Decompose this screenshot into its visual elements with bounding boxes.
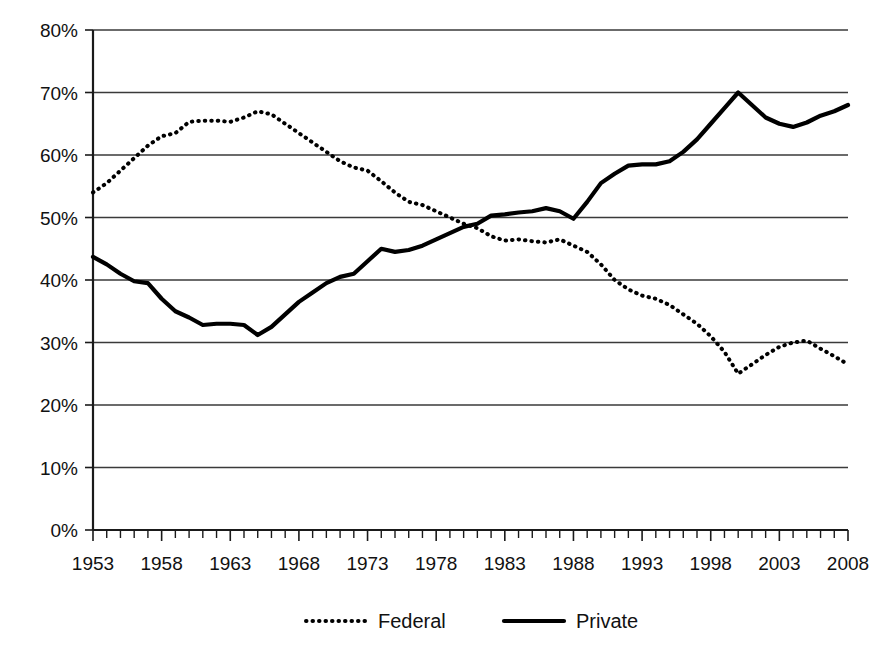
x-tick-label: 1958 [140, 553, 182, 574]
line-chart: 80%70%60%50%40%30%20%10%0% 1953195819631… [0, 0, 887, 661]
x-tick-label: 1973 [346, 553, 388, 574]
y-tick-label: 20% [40, 395, 78, 416]
y-tick-label: 60% [40, 145, 78, 166]
x-tick-label: 1953 [72, 553, 114, 574]
x-tick-label: 1988 [552, 553, 594, 574]
y-tick-label: 50% [40, 208, 78, 229]
y-tick-label: 40% [40, 270, 78, 291]
y-tick-label: 30% [40, 333, 78, 354]
y-axis-tick-labels: 80%70%60%50%40%30%20%10%0% [40, 20, 78, 541]
x-tick-label: 1968 [278, 553, 320, 574]
x-tick-label: 1998 [690, 553, 732, 574]
x-tick-label: 1963 [209, 553, 251, 574]
y-tick-label: 70% [40, 83, 78, 104]
y-tick-label: 10% [40, 458, 78, 479]
legend-label-federal: Federal [378, 610, 446, 632]
x-tick-label: 1978 [415, 553, 457, 574]
legend-label-private: Private [576, 610, 638, 632]
x-tick-label: 1993 [621, 553, 663, 574]
x-tick-label: 2008 [827, 553, 869, 574]
y-tick-label: 0% [51, 520, 79, 541]
x-tick-label: 1983 [484, 553, 526, 574]
x-tick-label: 2003 [758, 553, 800, 574]
chart-container: 80%70%60%50%40%30%20%10%0% 1953195819631… [0, 0, 887, 661]
y-tick-label: 80% [40, 20, 78, 41]
